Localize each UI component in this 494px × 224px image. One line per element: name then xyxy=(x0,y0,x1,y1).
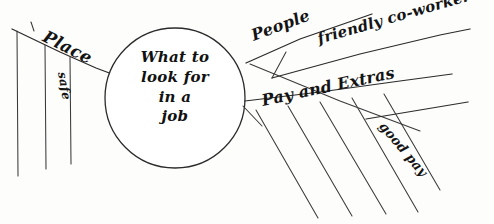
sub-branch-line-place-blank-2 xyxy=(17,31,18,176)
central-topic-line-1: What to xyxy=(112,48,238,68)
mindmap-strokes xyxy=(0,0,494,224)
central-topic-line-4: job xyxy=(112,107,238,127)
sub-branch-line-good-pay xyxy=(366,102,468,119)
sub-branch-line-safe xyxy=(70,57,71,164)
sub-branch-line-pay-blank-2 xyxy=(288,106,352,216)
sub-branch-line-place-blank-1 xyxy=(45,45,46,169)
central-topic-text: What to look for in a job xyxy=(112,48,238,127)
ink-tick-mark xyxy=(31,22,34,31)
sub-branch-line-pay-blank-1 xyxy=(256,110,318,218)
central-topic-line-3: in a xyxy=(112,88,238,108)
mindmap-canvas: What to look for in a job Place safe Peo… xyxy=(0,0,494,224)
sub-branch-line-pay-blank-3 xyxy=(320,102,386,214)
central-topic-line-2: look for xyxy=(112,68,238,88)
